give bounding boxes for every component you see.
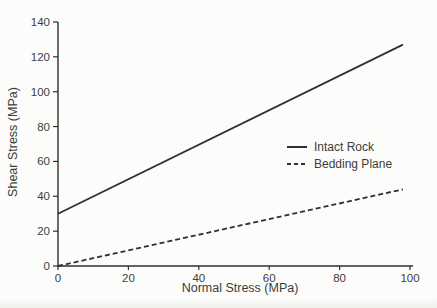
- y-tick-label: 60: [37, 155, 50, 167]
- x-tick-label: 80: [333, 272, 346, 284]
- y-tick-label: 120: [31, 51, 50, 63]
- series-line-bedding-plane: [58, 189, 403, 266]
- legend-item-intact-rock: Intact Rock: [287, 138, 392, 155]
- legend-label-intact-rock: Intact Rock: [314, 140, 374, 154]
- y-axis-title: Shear Stress (MPa): [6, 87, 20, 197]
- dashed-line-sample: [287, 163, 307, 165]
- legend-item-bedding-plane: Bedding Plane: [287, 155, 392, 172]
- legend-label-bedding-plane: Bedding Plane: [314, 157, 392, 171]
- x-axis-title: Normal Stress (MPa): [182, 281, 299, 295]
- y-tick-label: 140: [31, 16, 50, 28]
- y-tick-label: 20: [37, 225, 50, 237]
- y-tick-label: 80: [37, 121, 50, 133]
- x-tick-label: 0: [55, 272, 61, 284]
- y-tick-label: 0: [44, 260, 50, 272]
- y-tick-label: 100: [31, 86, 50, 98]
- chart-figure: 020406080100020406080100120140 Shear Str…: [0, 0, 437, 308]
- legend: Intact Rock Bedding Plane: [287, 138, 392, 172]
- y-tick-label: 40: [37, 190, 50, 202]
- x-tick-label: 20: [122, 272, 135, 284]
- x-tick-label: 100: [400, 272, 419, 284]
- solid-line-sample: [287, 146, 307, 148]
- series-line-intact-rock: [58, 45, 403, 214]
